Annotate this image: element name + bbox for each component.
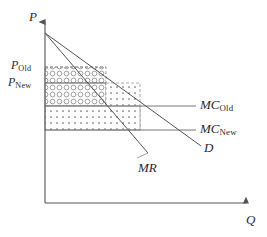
marginal-cost-old-label: MCOld (200, 98, 233, 111)
price-new-label: PNew (8, 76, 31, 88)
marginal-revenue-label: MR (138, 161, 157, 174)
marginal-cost-old-label-subscript: Old (220, 103, 234, 113)
profit-retained-region (45, 83, 106, 106)
economics-diagram: P Q POld PNew MCOld MCNew D MR (0, 0, 267, 237)
marginal-cost-old-label-base: MC (200, 97, 220, 112)
marginal-cost-new-label: MCNew (200, 122, 237, 135)
shaded-regions (45, 67, 140, 130)
marginal-revenue-leader-line (137, 153, 148, 158)
price-old-label-subscript: Old (18, 64, 31, 73)
demand-curve-label: D (204, 141, 213, 154)
x-axis-label: Q (246, 213, 255, 226)
diagram-canvas (0, 0, 267, 237)
profit-lost-region (45, 67, 106, 83)
marginal-cost-new-label-base: MC (200, 121, 220, 136)
price-new-label-subscript: New (15, 81, 31, 90)
y-axis-label: P (29, 10, 37, 23)
marginal-cost-new-label-subscript: New (220, 127, 237, 137)
price-old-label: POld (11, 59, 31, 71)
